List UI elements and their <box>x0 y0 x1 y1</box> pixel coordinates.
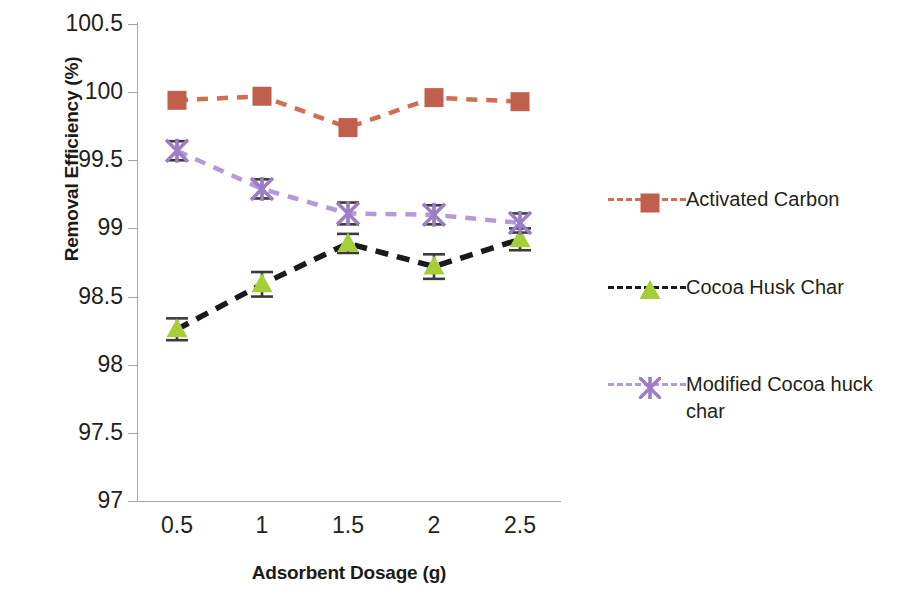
legend-entry[interactable]: Cocoa Husk Char <box>608 274 844 301</box>
legend-entry[interactable]: Modified Cocoa huck char <box>608 371 914 425</box>
data-point-marker <box>253 87 272 106</box>
data-point-marker <box>511 92 530 111</box>
legend-label: Modified Cocoa huck char <box>686 371 914 425</box>
legend-entry[interactable]: Activated Carbon <box>608 186 839 213</box>
legend-key <box>608 274 686 300</box>
legend-label: Activated Carbon <box>686 186 839 213</box>
data-point-marker <box>339 118 358 137</box>
legend-key <box>608 371 686 397</box>
legend-label: Cocoa Husk Char <box>686 274 844 301</box>
data-point-marker <box>252 273 273 292</box>
legend-marker-swatch <box>639 280 661 306</box>
legend-marker-swatch <box>639 192 661 218</box>
legend-key <box>608 186 686 212</box>
series-cocoa-husk-char <box>166 228 531 340</box>
series-activated-carbon <box>168 87 530 137</box>
chart-figure: Removal Efficiency (%) 100.510099.59998.… <box>0 0 920 598</box>
data-point-marker <box>166 139 188 163</box>
data-point-marker <box>425 88 444 107</box>
legend-marker-swatch <box>639 377 661 403</box>
series-modified-cocoa-huck-char <box>166 139 531 235</box>
data-point-marker <box>168 91 187 110</box>
data-point-marker <box>338 232 359 251</box>
